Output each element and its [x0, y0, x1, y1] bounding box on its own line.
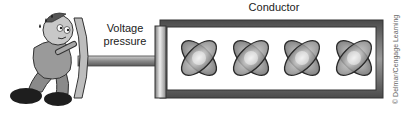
piston-rod [78, 56, 158, 66]
copyright-notice: © Delmar/Cengage Learning [391, 9, 401, 104]
voltage-pressure-label: Voltage pressure [98, 22, 152, 48]
piston-plate [155, 26, 166, 98]
voltage-pressure-line1: Voltage [98, 22, 152, 35]
pushing-man-figure [10, 13, 88, 106]
voltage-pressure-line2: pressure [98, 35, 152, 48]
conductor-label: Conductor [244, 1, 304, 14]
conductor-diagram [0, 0, 409, 115]
